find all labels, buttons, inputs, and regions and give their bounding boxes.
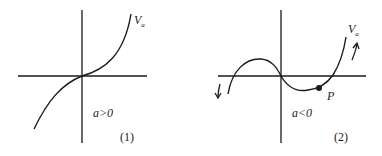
up-arrow-icon bbox=[352, 43, 359, 60]
panel-1: Va a>0 (1) bbox=[18, 10, 147, 144]
point-p-label: P bbox=[326, 89, 335, 103]
panel-2: P Va a<0 (2) bbox=[215, 10, 366, 144]
panel-2-condition: a<0 bbox=[292, 106, 312, 120]
panel-1-caption: (1) bbox=[120, 130, 134, 144]
panel-2-curve-label: Va bbox=[348, 22, 359, 38]
panel-1-curve-label: Va bbox=[134, 13, 145, 29]
point-p-marker bbox=[316, 85, 322, 91]
panel-2-caption: (2) bbox=[334, 130, 348, 144]
panel-1-condition: a>0 bbox=[93, 106, 113, 120]
panel-2-curve bbox=[228, 37, 346, 94]
down-arrow-icon bbox=[215, 84, 221, 98]
diagram-canvas: Va a>0 (1) P Va a<0 (2) bbox=[0, 0, 382, 156]
